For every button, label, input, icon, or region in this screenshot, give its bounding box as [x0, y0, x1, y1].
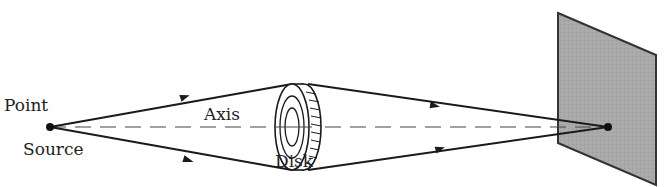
label-point: Point [4, 97, 48, 114]
label-source: Source [23, 141, 84, 158]
poisson-spot-diagram: Point Source Axis Disk [0, 0, 672, 187]
label-axis: Axis [204, 106, 240, 123]
arrow-icon [182, 155, 194, 164]
point-source-dot [46, 123, 54, 131]
label-disk: Disk [275, 153, 313, 170]
screen [558, 13, 656, 185]
arrow-icon [179, 93, 190, 102]
diagram-canvas [0, 0, 672, 187]
ray-upper-incident [50, 84, 292, 127]
ray-lower-diffracted [308, 127, 608, 170]
bright-spot-dot [604, 123, 612, 131]
ray-lower-incident [50, 127, 292, 170]
